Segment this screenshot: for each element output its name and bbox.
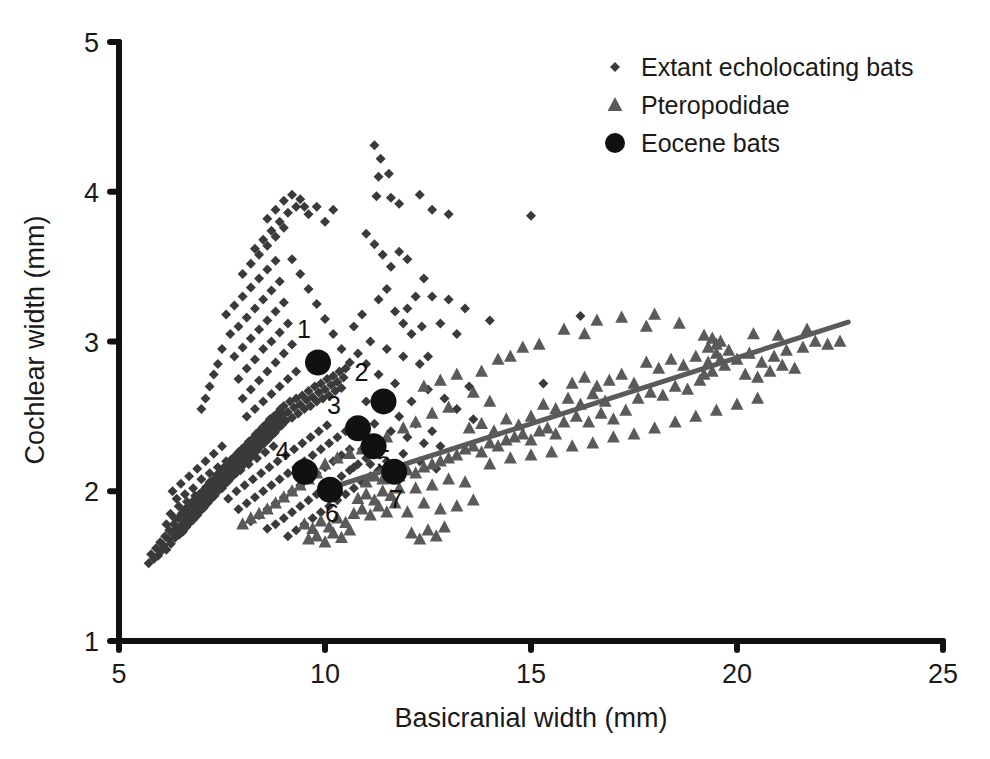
data-point-eocene (305, 349, 331, 375)
y-tick-label: 3 (84, 328, 99, 358)
eocene-point-label: 4 (276, 437, 290, 465)
data-point-eocene (292, 459, 318, 485)
legend-marker-circle (605, 133, 625, 153)
x-tick-label: 20 (722, 659, 752, 689)
y-tick-label: 1 (84, 627, 99, 657)
y-tick-label: 2 (84, 477, 99, 507)
scatter-plot: 12345510152025 1234567 Extant echolocati… (0, 0, 990, 759)
eocene-point-label: 6 (325, 499, 339, 527)
x-tick-label: 25 (928, 659, 958, 689)
x-tick-label: 5 (111, 659, 126, 689)
legend-label: Pteropodidae (641, 91, 790, 119)
eocene-point-label: 2 (355, 358, 369, 386)
y-tick-label: 4 (84, 178, 99, 208)
y-axis-title: Cochlear width (mm) (20, 215, 50, 464)
plot-background (0, 0, 990, 759)
eocene-point-label: 7 (389, 485, 403, 513)
chart-figure: 12345510152025 1234567 Extant echolocati… (0, 0, 990, 759)
x-tick-label: 10 (310, 659, 340, 689)
x-tick-label: 15 (516, 659, 546, 689)
eocene-point-label: 3 (327, 391, 341, 419)
data-point-eocene (381, 459, 407, 485)
x-axis-title: Basicranial width (mm) (394, 703, 667, 733)
legend-label: Eocene bats (641, 129, 780, 157)
legend-label: Extant echolocating bats (641, 53, 913, 81)
eocene-point-label: 1 (297, 315, 311, 343)
y-tick-label: 5 (84, 28, 99, 58)
data-point-eocene (371, 388, 397, 414)
